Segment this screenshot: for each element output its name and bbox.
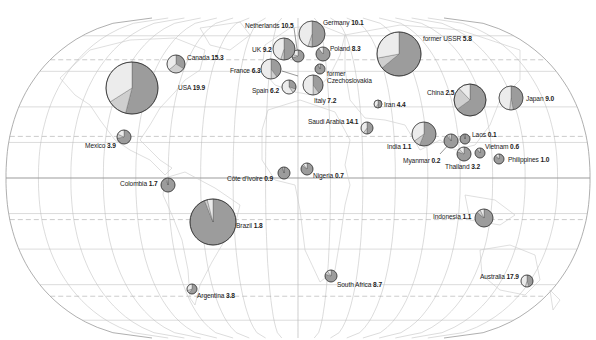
label-southafrica: South Africa 8.7 bbox=[337, 281, 382, 288]
world-map bbox=[0, 0, 596, 340]
country-value: 8.3 bbox=[352, 45, 361, 52]
pie-myanmar bbox=[444, 134, 458, 148]
label-ussr: former USSR 5.8 bbox=[423, 35, 472, 42]
pie-c-te-d-ivoire bbox=[278, 167, 290, 179]
country-name: Philippines bbox=[508, 156, 539, 163]
pie-france bbox=[261, 59, 281, 79]
country-name: Poland bbox=[330, 45, 350, 52]
label-indonesia: Indonesia 1.1 bbox=[433, 213, 471, 220]
country-name: Iran bbox=[384, 101, 395, 108]
country-value: 7.2 bbox=[327, 97, 336, 104]
country-value: 9.0 bbox=[545, 95, 554, 102]
country-name: former USSR bbox=[423, 35, 461, 42]
country-value: 4.4 bbox=[397, 101, 406, 108]
pie-saudi-arabia bbox=[361, 122, 373, 134]
pie-india bbox=[412, 122, 436, 146]
label-colombia: Colombia 1.7 bbox=[120, 180, 158, 187]
label-iran: Iran 4.4 bbox=[384, 101, 406, 108]
country-value: 0.6 bbox=[510, 143, 519, 150]
country-name: Japan bbox=[526, 95, 543, 102]
label-spain: Spain 6.2 bbox=[252, 87, 279, 94]
country-name: Thailand bbox=[445, 163, 470, 170]
label-brazil: Brazil 1.8 bbox=[236, 222, 263, 229]
country-name-line2: Czechoslovakia bbox=[327, 77, 372, 84]
pie-former-ussr bbox=[377, 32, 421, 76]
pie-philippines bbox=[494, 154, 504, 164]
pie-spain bbox=[282, 80, 296, 94]
label-myanmar: Myanmar 0.2 bbox=[403, 157, 440, 164]
label-usa: USA 19.9 bbox=[178, 84, 205, 91]
graticule-lines bbox=[6, 18, 590, 338]
label-japan: Japan 9.0 bbox=[526, 95, 554, 102]
country-name: South Africa bbox=[337, 281, 371, 288]
pie-china bbox=[454, 84, 486, 116]
label-australia: Australia 17.9 bbox=[480, 273, 519, 280]
country-value: 1.1 bbox=[403, 143, 412, 150]
country-name: Laos bbox=[472, 131, 486, 138]
country-value: 1.8 bbox=[254, 222, 263, 229]
country-value: 3.8 bbox=[226, 292, 235, 299]
label-poland: Poland 8.3 bbox=[330, 45, 361, 52]
country-name: Spain bbox=[252, 87, 268, 94]
country-value: 14.1 bbox=[346, 118, 358, 125]
pie-argentina bbox=[187, 284, 197, 294]
country-value: 3.9 bbox=[107, 142, 116, 149]
pie-canada bbox=[167, 55, 185, 73]
country-value: 8.7 bbox=[373, 281, 382, 288]
pie-usa bbox=[106, 62, 158, 114]
label-philippines: Philippines 1.0 bbox=[508, 156, 549, 163]
label-vietnam: Vietnam 0.6 bbox=[485, 143, 519, 150]
pie-charts bbox=[106, 21, 533, 294]
country-value: 15.3 bbox=[211, 54, 223, 61]
label-china: China 2.5 bbox=[427, 89, 454, 96]
country-name: Brazil bbox=[236, 222, 252, 229]
country-name: Colombia bbox=[120, 180, 147, 187]
pie-laos bbox=[460, 134, 470, 144]
pie-colombia bbox=[161, 178, 175, 192]
label-mexico: Mexico 3.9 bbox=[85, 142, 116, 149]
country-value: 6.3 bbox=[252, 67, 261, 74]
pie-thailand bbox=[457, 147, 471, 161]
country-value: 19.9 bbox=[193, 84, 205, 91]
label-india: India 1.1 bbox=[387, 143, 411, 150]
pie-brazil bbox=[190, 199, 236, 245]
pie-iran bbox=[374, 100, 382, 108]
country-name: France bbox=[230, 67, 250, 74]
label-cote: Côte d'Ivoire 0.9 bbox=[227, 175, 273, 182]
label-czech: formerCzechoslovakia bbox=[327, 70, 372, 84]
country-value: 10.5 bbox=[281, 22, 293, 29]
country-value: 9.2 bbox=[263, 46, 272, 53]
label-canada: Canada 15.3 bbox=[187, 54, 224, 61]
country-value: 1.1 bbox=[462, 213, 471, 220]
pie-japan bbox=[499, 86, 523, 110]
country-value: 2.5 bbox=[445, 89, 454, 96]
country-name: Canada bbox=[187, 54, 210, 61]
pie-former-czechoslovakia bbox=[315, 64, 325, 74]
country-name: Italy bbox=[314, 97, 326, 104]
pie-indonesia bbox=[475, 209, 493, 227]
country-name: Netherlands bbox=[245, 22, 279, 29]
country-value: 10.1 bbox=[351, 19, 363, 26]
country-value: 0.7 bbox=[335, 172, 344, 179]
country-value: 1.0 bbox=[541, 156, 550, 163]
country-name: Argentina bbox=[197, 292, 224, 299]
country-name: Mexico bbox=[85, 142, 105, 149]
pie-uk bbox=[273, 38, 295, 60]
country-name: Côte d'Ivoire bbox=[227, 175, 263, 182]
country-name: Australia bbox=[480, 273, 505, 280]
country-value: 0.2 bbox=[432, 157, 441, 164]
country-name: Myanmar bbox=[403, 157, 430, 164]
label-saudi: Saudi Arabia 14.1 bbox=[308, 118, 358, 125]
label-nigeria: Nigeria 0.7 bbox=[313, 172, 344, 179]
country-name: Indonesia bbox=[433, 213, 461, 220]
country-name: China bbox=[427, 89, 444, 96]
country-value: 17.9 bbox=[507, 273, 519, 280]
country-value: 0.9 bbox=[264, 175, 273, 182]
label-argentina: Argentina 3.8 bbox=[197, 292, 235, 299]
country-name: former bbox=[327, 70, 345, 77]
pie-vietnam bbox=[475, 148, 485, 158]
pie-italy bbox=[303, 75, 323, 95]
country-name: USA bbox=[178, 84, 191, 91]
pie-australia bbox=[521, 275, 533, 287]
pie-south-africa bbox=[325, 270, 337, 282]
